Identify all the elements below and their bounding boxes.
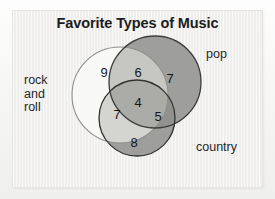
region-count-rock-pop: 6: [129, 66, 147, 79]
region-count-rock-country: 7: [108, 108, 126, 121]
set-label-rock-line2: and: [24, 88, 48, 102]
set-label-rock-line1: rock: [24, 74, 48, 88]
region-count-rock-only: 9: [95, 66, 113, 79]
venn-diagram-figure: Favorite Types of Music: [0, 0, 275, 199]
set-label-rock: rock and roll: [24, 74, 48, 115]
region-count-all-three: 4: [129, 96, 147, 109]
set-label-country: country: [196, 141, 237, 155]
region-count-pop-country: 5: [149, 110, 167, 123]
set-label-pop: pop: [206, 48, 227, 62]
region-count-country-only: 8: [125, 136, 143, 149]
region-count-pop-only: 7: [161, 72, 179, 85]
set-label-rock-line3: roll: [24, 101, 48, 115]
